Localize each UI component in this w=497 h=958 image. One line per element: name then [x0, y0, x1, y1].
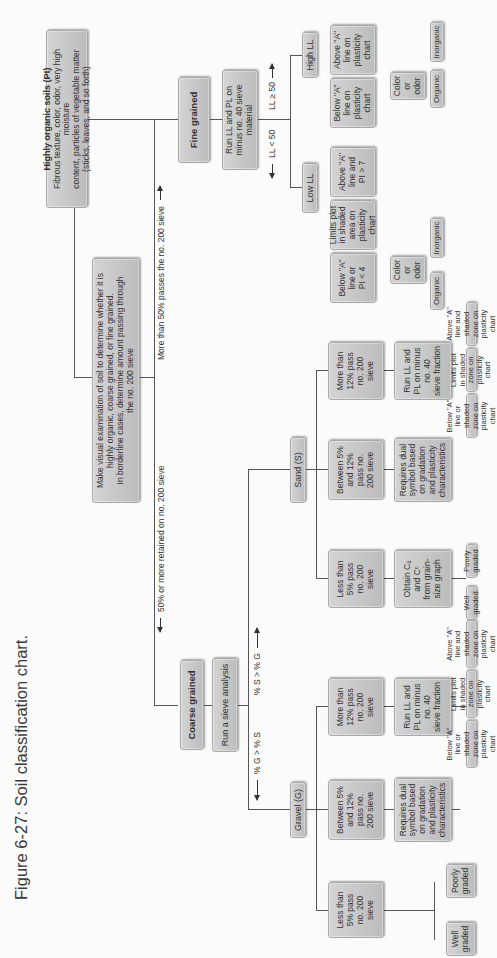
result-symbols-column — [0, 0, 477, 958]
